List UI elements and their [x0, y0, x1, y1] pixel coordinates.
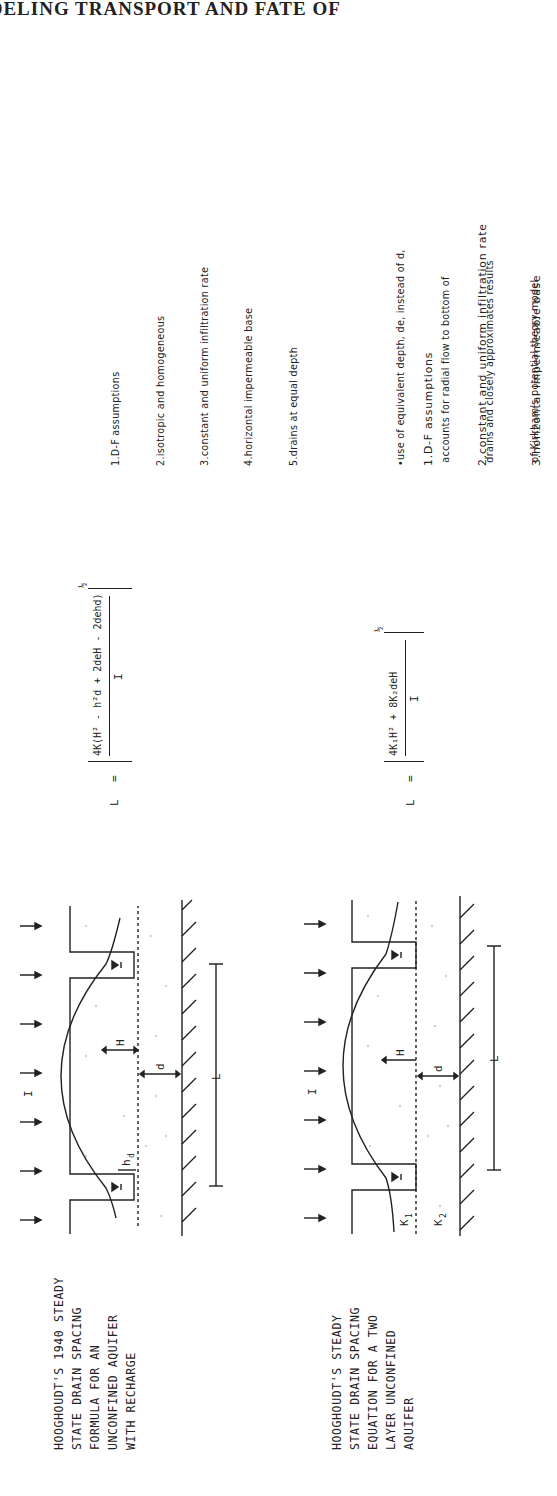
label-spacing: L	[488, 1055, 501, 1062]
label-recharge: I	[306, 1088, 319, 1095]
label-spacing: L	[210, 1073, 223, 1080]
formula-numerator: 4K₁H² + 8K₂deH	[388, 672, 399, 756]
label-depth: d	[432, 1065, 445, 1072]
formula-denominator: I	[408, 695, 421, 702]
formula-lhs: L	[108, 799, 121, 806]
formula-denominator: I	[112, 673, 125, 680]
water-table-symbol-icon	[112, 961, 121, 1191]
formula-equals: =	[404, 775, 417, 782]
label-recharge: I	[22, 1090, 35, 1097]
formula-recharge: L = 4K(H² - h²d + 2deH - 2dehd) I ½	[88, 586, 148, 806]
svg-text:2: 2	[439, 1213, 448, 1218]
impermeable-base-hatch-icon	[460, 904, 474, 1230]
water-table-symbol-icon	[392, 951, 401, 1181]
formula-lhs: L	[404, 799, 417, 806]
formula-numerator: 4K(H² - h²d + 2deH - 2dehd)	[92, 593, 103, 756]
formula-exponent: ½	[374, 627, 384, 632]
svg-text:d: d	[127, 1153, 136, 1158]
rotated-document-page: MODELING TRANSPORT AND FATE OF HOOGHOUDT…	[0, 0, 557, 1496]
recharge-arrows-icon	[304, 921, 325, 1221]
assumption-list: 1.D-F assumptions 2.isotropic and homoge…	[80, 230, 332, 466]
label-layer2-conductivity: K	[432, 1219, 445, 1226]
svg-text:1: 1	[405, 1213, 414, 1218]
label-head: H	[394, 1049, 407, 1056]
assumptions-two-layer: 1.D-F assumptions 2.constant and uniform…	[384, 223, 557, 466]
label-layer1-conductivity: K	[398, 1219, 411, 1226]
formula-two-layer: L = 4K₁H² + 8K₂deH I ½	[384, 606, 444, 806]
diagram-two-layer-aquifer: I H d L K 1 K 2	[290, 876, 520, 1236]
formula-equals: =	[108, 775, 121, 782]
label-drain-depth: h	[120, 1159, 133, 1166]
description-two-layer: HOOGHOUDT'S STEADY STATE DRAIN SPACING E…	[328, 1307, 418, 1450]
description-recharge: HOOGHOUDT'S 1940 STEADY STATE DRAIN SPAC…	[50, 1277, 140, 1450]
impermeable-base-hatch-icon	[182, 900, 196, 1222]
formula-exponent: ½	[78, 583, 88, 588]
label-depth: d	[154, 1063, 167, 1070]
diagram-recharge-aquifer-detail: I H d h d L	[6, 876, 236, 1236]
recharge-arrows-icon	[20, 923, 41, 1223]
label-head: H	[114, 1039, 127, 1046]
